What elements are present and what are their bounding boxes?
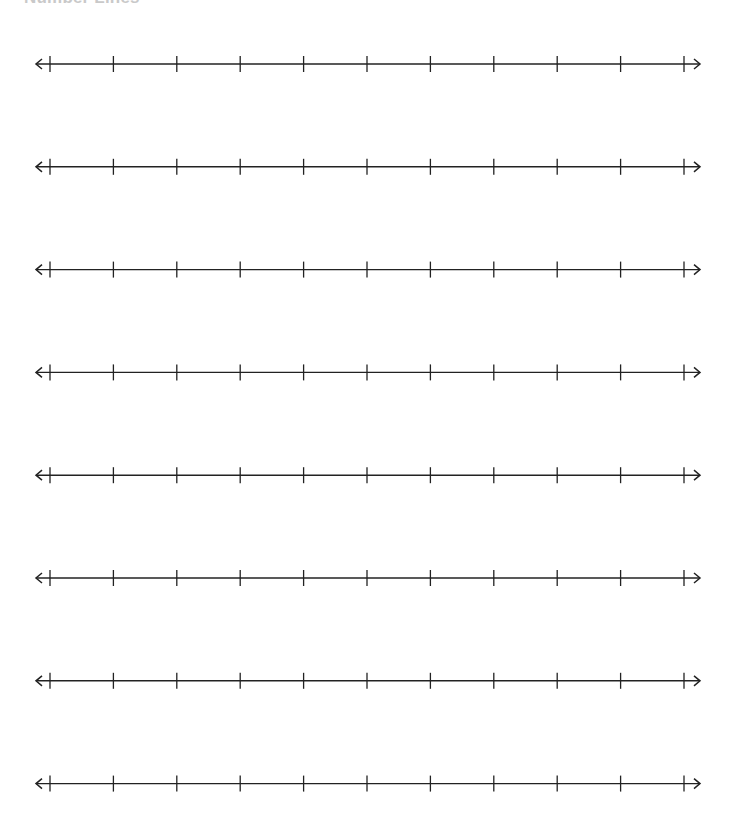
- number-line: [36, 56, 700, 72]
- number-line: [36, 673, 700, 689]
- number-line: [36, 570, 700, 586]
- number-lines-sheet: [0, 0, 736, 814]
- number-line: [36, 159, 700, 175]
- number-line: [36, 467, 700, 483]
- number-line: [36, 262, 700, 278]
- number-line: [36, 776, 700, 792]
- number-line: [36, 364, 700, 380]
